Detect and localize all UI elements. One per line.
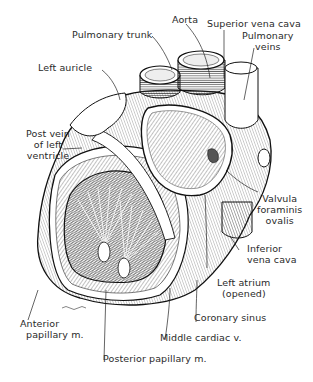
label-middle-cardiac-vein: Middle cardiac v. [160, 332, 242, 343]
label-pulmonary-trunk: Pulmonary trunk [72, 29, 152, 40]
label-inferior-vena-cava: Inferior vena cava [247, 243, 297, 265]
label-aorta: Aorta [172, 14, 198, 25]
label-coronary-sinus: Coronary sinus [194, 312, 266, 323]
label-valvula-foraminis-ovalis: Valvula foraminis ovalis [257, 193, 302, 226]
label-anterior-papillary-muscle: Anterior papillary m. [20, 318, 84, 340]
label-superior-vena-cava: Superior vena cava [207, 18, 301, 29]
label-pulmonary-veins: Pulmonary veins [242, 30, 294, 52]
heart-diagram: Aorta Superior vena cava Pulmonary trunk… [0, 0, 313, 382]
label-post-vein-left-ventricle: Post vein of left ventricle [26, 128, 70, 161]
label-left-auricle: Left auricle [38, 62, 92, 73]
label-left-atrium-opened: Left atrium (opened) [217, 277, 270, 299]
artist-signature [62, 307, 86, 310]
label-posterior-papillary-muscle: Posterior papillary m. [103, 353, 207, 364]
